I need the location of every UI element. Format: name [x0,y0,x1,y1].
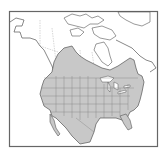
range-map [0,0,168,155]
map-canvas [0,0,168,155]
